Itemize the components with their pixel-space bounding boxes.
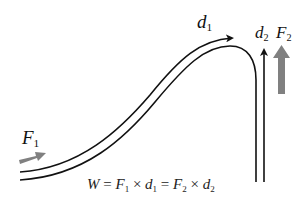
label-d1: d1 <box>197 12 212 33</box>
eq-times-1: × <box>129 176 145 192</box>
eq-d1: d <box>145 176 153 192</box>
f1-symbol: F <box>22 127 34 148</box>
eq-equals-1: = <box>100 176 116 192</box>
eq-w: W <box>87 176 100 192</box>
force-f1-arrow-icon <box>19 152 46 164</box>
d2-symbol: d <box>255 23 264 42</box>
d1-symbol: d <box>197 11 207 32</box>
f2-subscript: 2 <box>286 32 291 43</box>
f1-subscript: 1 <box>34 137 40 149</box>
label-d2: d2 <box>255 24 269 43</box>
eq-f2: F <box>173 176 182 192</box>
d1-subscript: 1 <box>207 21 213 33</box>
ramp-track-lower <box>20 46 256 182</box>
ramp-track-upper <box>20 38 232 172</box>
force-f2-arrow-icon <box>273 45 290 94</box>
eq-d2-sub: 2 <box>210 184 215 194</box>
eq-f1: F <box>115 176 124 192</box>
eq-equals-2: = <box>157 176 173 192</box>
f2-symbol: F <box>276 23 286 42</box>
label-f1: F1 <box>22 128 39 149</box>
label-f2: F2 <box>276 24 291 43</box>
work-equation: W = F1 × d1 = F2 × d2 <box>87 176 215 194</box>
d2-subscript: 2 <box>264 32 269 43</box>
eq-times-2: × <box>187 176 203 192</box>
